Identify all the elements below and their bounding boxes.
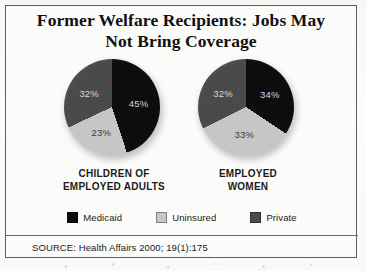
chart-title-line-2: Not Bring Coverage (6, 31, 356, 52)
legend-item-private: Private (250, 212, 296, 223)
slice-label-medicaid-right: 34% (260, 89, 280, 100)
slice-label-medicaid-left: 45% (129, 97, 149, 108)
chart-legend: Medicaid Uninsured Private (6, 212, 358, 223)
legend-swatch-uninsured-icon (156, 212, 167, 223)
legend-item-uninsured: Uninsured (156, 212, 216, 223)
slice-label-private-right: 32% (213, 87, 233, 98)
chart-title: Former Welfare Recipients: Jobs May Not … (6, 10, 356, 52)
pie-caption-left-line-2: EMPLOYED ADULTS (39, 181, 189, 194)
legend-item-medicaid: Medicaid (67, 212, 122, 223)
pie-graphic-left: 45% 23% 32% (62, 58, 166, 162)
pie-caption-left-line-1: CHILDREN OF (39, 168, 189, 181)
pie-chart-employed-women: 34% 33% 32% EMPLOYED WOMEN (173, 58, 323, 198)
legend-swatch-private-icon (250, 212, 261, 223)
pie-caption-right-line-1: EMPLOYED (173, 168, 323, 181)
pie-charts-container: 45% 23% 32% CHILDREN OF EMPLOYED ADULTS … (6, 58, 358, 198)
chart-frame: Former Welfare Recipients: Jobs May Not … (5, 5, 357, 258)
chart-figure: Former Welfare Recipients: Jobs May Not … (0, 0, 366, 271)
legend-label-medicaid: Medicaid (83, 212, 122, 223)
pie-caption-left: CHILDREN OF EMPLOYED ADULTS (39, 168, 189, 193)
legend-label-uninsured: Uninsured (172, 212, 216, 223)
legend-source-divider (6, 235, 358, 236)
pie-graphic-right: 34% 33% 32% (196, 58, 300, 162)
slice-label-uninsured-left: 23% (91, 126, 111, 137)
legend-swatch-medicaid-icon (67, 212, 78, 223)
scan-speckle (0, 260, 366, 271)
legend-label-private: Private (266, 212, 296, 223)
chart-source-note: SOURCE: Health Affairs 2000; 19(1):175 (32, 242, 208, 253)
pie-caption-right-line-2: WOMEN (173, 181, 323, 194)
slice-label-private-left: 32% (79, 87, 99, 98)
slice-label-uninsured-right: 33% (234, 128, 254, 139)
pie-slices-right (198, 59, 294, 155)
pie-caption-right: EMPLOYED WOMEN (173, 168, 323, 193)
chart-title-line-1: Former Welfare Recipients: Jobs May (6, 10, 356, 31)
pie-chart-children-of-employed-adults: 45% 23% 32% CHILDREN OF EMPLOYED ADULTS (39, 58, 189, 198)
